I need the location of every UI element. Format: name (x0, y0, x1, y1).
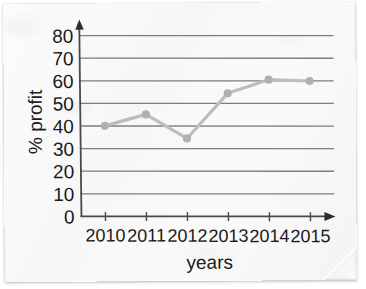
x-axis (80, 212, 335, 223)
screenshot-root: 80 70 60 50 40 30 20 10 0 2010 2011 2012… (0, 0, 366, 289)
y-tick-label-50: 50 (53, 93, 74, 114)
x-tick-label-2015: 2015 (290, 226, 330, 246)
y-axis-arrow (75, 20, 84, 30)
x-tick-label-2010: 2010 (85, 225, 125, 245)
data-point-2014[interactable] (264, 76, 272, 84)
line-chart: 80 70 60 50 40 30 20 10 0 2010 2011 2012… (3, 2, 357, 282)
y-tick-labels: 80 70 60 50 40 30 20 10 0 (52, 26, 74, 228)
x-tick-labels: 2010 2011 2012 2013 2014 2015 (85, 224, 330, 247)
y-tick-label-20: 20 (53, 161, 74, 182)
data-point-2015[interactable] (306, 77, 314, 85)
x-tick-label-2011: 2011 (127, 225, 166, 245)
data-point-2012[interactable] (183, 134, 191, 142)
x-tick-label-2012: 2012 (167, 226, 207, 246)
gridline-50 (80, 102, 334, 105)
gridline-20 (80, 170, 334, 173)
data-point-2010[interactable] (101, 122, 109, 130)
data-markers (100, 75, 314, 143)
x-axis-arrow (324, 212, 335, 221)
y-axis-title: % profit (25, 89, 46, 154)
gridline-70 (79, 57, 333, 60)
chart-svg: 80 70 60 50 40 30 20 10 0 2010 2011 2012… (3, 2, 357, 282)
data-line-profit (105, 79, 310, 139)
y-tick-label-0: 0 (64, 206, 75, 227)
y-tick-label-70: 70 (52, 48, 73, 69)
data-point-2011[interactable] (142, 110, 150, 118)
y-axis (75, 20, 85, 217)
y-tick-label-60: 60 (52, 71, 73, 92)
y-tick-label-30: 30 (53, 139, 74, 160)
x-tick-label-2013: 2013 (208, 226, 248, 246)
gridline-30 (80, 147, 334, 150)
x-tick-label-2014: 2014 (249, 226, 289, 246)
y-tick-label-80: 80 (52, 26, 73, 47)
y-tick-label-40: 40 (53, 116, 74, 137)
data-point-2013[interactable] (224, 89, 232, 97)
gridline-40 (80, 124, 334, 127)
scanned-paper-sheet: 80 70 60 50 40 30 20 10 0 2010 2011 2012… (3, 2, 357, 282)
y-tick-label-10: 10 (53, 184, 74, 205)
gridline-10 (80, 192, 334, 195)
x-axis-title: years (186, 252, 233, 273)
gridline-80 (79, 34, 333, 37)
